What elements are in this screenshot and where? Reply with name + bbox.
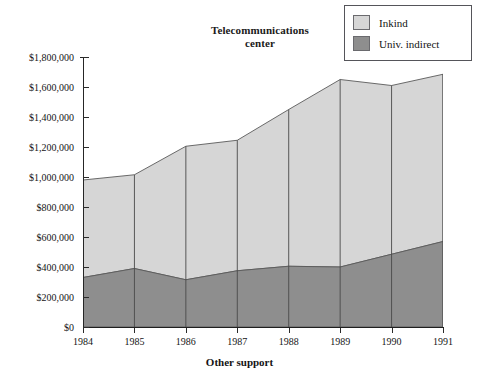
x-tick-mark bbox=[134, 328, 135, 333]
x-tick-mark bbox=[443, 328, 444, 333]
x-tick-label: 1990 bbox=[370, 336, 414, 347]
x-tick-label: 1991 bbox=[421, 336, 465, 347]
x-tick-label: 1989 bbox=[318, 336, 362, 347]
x-tick-label: 1987 bbox=[215, 336, 259, 347]
x-axis-ticks: 19841985198619871988198919901991 bbox=[0, 0, 479, 385]
x-tick-mark bbox=[83, 328, 84, 333]
x-tick-label: 1986 bbox=[164, 336, 208, 347]
x-tick-label: 1984 bbox=[61, 336, 105, 347]
chart-figure: Telecommunications center Inkind Univ. i… bbox=[0, 0, 479, 385]
x-tick-label: 1988 bbox=[267, 336, 311, 347]
x-tick-mark bbox=[340, 328, 341, 333]
x-axis-title: Other support bbox=[0, 356, 479, 368]
x-tick-mark bbox=[392, 328, 393, 333]
x-tick-mark bbox=[289, 328, 290, 333]
x-tick-mark bbox=[237, 328, 238, 333]
x-tick-mark bbox=[186, 328, 187, 333]
x-tick-label: 1985 bbox=[112, 336, 156, 347]
